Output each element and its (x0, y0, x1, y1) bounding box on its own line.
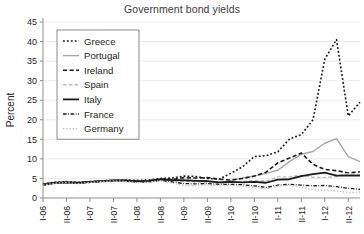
series-line-ireland (43, 153, 360, 185)
y-tick-label: 15 (27, 135, 37, 145)
y-tick-label: 20 (27, 115, 37, 125)
x-tick-label: I-06 (38, 206, 48, 221)
legend-label-portugal: Portugal (84, 50, 120, 61)
x-tick-label: I-10 (226, 206, 236, 221)
x-tick-label: I-12 (320, 206, 330, 221)
y-tick-label: 40 (27, 37, 37, 47)
x-tick-label: II-11 (297, 206, 307, 223)
x-tick-label: II-07 (109, 206, 119, 223)
legend-label-italy: Italy (84, 94, 102, 105)
y-tick-label: 10 (27, 154, 37, 164)
legend-label-spain: Spain (84, 79, 109, 90)
x-tick-label: I-09 (179, 206, 189, 221)
line-chart: 051015202530354045PercentI-06II-06I-07II… (0, 0, 364, 234)
x-tick-label: II-08 (156, 206, 166, 223)
y-tick-label: 25 (27, 95, 37, 105)
y-tick-label: 5 (32, 174, 37, 184)
y-axis-title: Percent (5, 93, 16, 128)
x-tick-label: I-11 (273, 206, 283, 220)
y-tick-label: 30 (27, 76, 37, 86)
legend-label-greece: Greece (84, 36, 115, 47)
x-tick-label: II-12 (344, 206, 354, 223)
x-tick-label: I-08 (132, 206, 142, 221)
chart-figure: Government bond yields 05101520253035404… (0, 0, 364, 234)
y-tick-label: 0 (32, 193, 37, 203)
x-tick-label: II-06 (62, 206, 72, 223)
x-tick-label: I-07 (85, 206, 95, 221)
y-tick-label: 45 (27, 17, 37, 27)
y-tick-label: 35 (27, 56, 37, 66)
legend-label-germany: Germany (84, 123, 124, 134)
legend-label-ireland: Ireland (84, 65, 113, 76)
legend-label-france: France (84, 109, 114, 120)
x-tick-label: II-10 (250, 206, 260, 223)
series-line-germany (43, 181, 360, 193)
x-tick-label: II-09 (203, 206, 213, 223)
